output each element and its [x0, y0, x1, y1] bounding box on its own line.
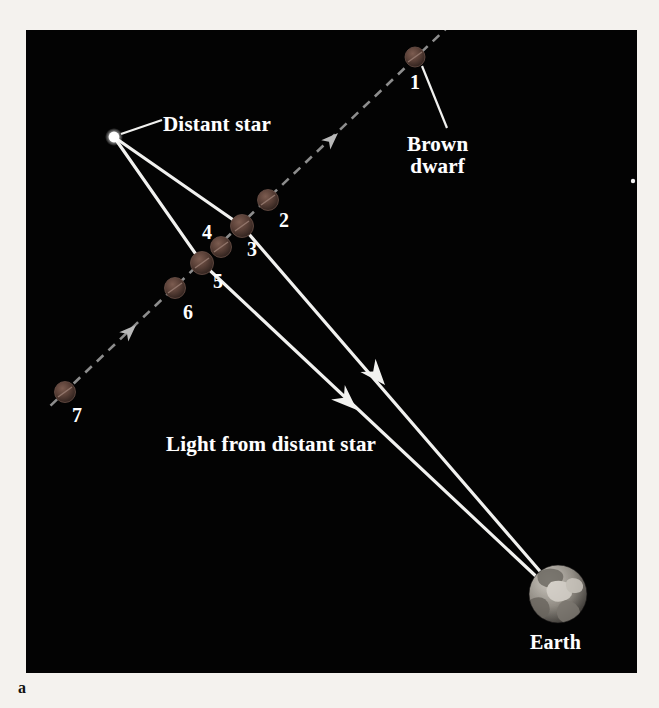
position-number-2: 2: [279, 210, 289, 230]
brown-dwarf-label-line1: Brown: [407, 133, 468, 155]
position-number-1: 1: [410, 72, 420, 92]
light-ray-lower: [114, 137, 540, 580]
brown-dwarf-position-7: [55, 382, 76, 403]
brown-dwarf-leader-line: [422, 66, 447, 128]
position-number-6: 6: [183, 302, 193, 322]
position-number-3: 3: [247, 239, 257, 259]
light-ray-arrow-upper: [360, 359, 392, 392]
brown-dwarf-position-4: [211, 237, 232, 258]
background-star-icon: [631, 179, 635, 183]
brown-dwarf-position-6: [165, 278, 186, 299]
sky-diagram-svg: [26, 30, 637, 673]
distant-star-leader-line: [121, 120, 162, 134]
earth-label: Earth: [530, 631, 581, 654]
brown-dwarf-position-3: [231, 215, 254, 238]
figure-root: Distant star Brown dwarf Light from dist…: [0, 0, 659, 708]
distant-star-label: Distant star: [163, 112, 271, 137]
track-direction-arrow-1: [321, 128, 342, 149]
brown-dwarf-position-1: [405, 47, 425, 67]
light-ray-upper: [114, 137, 545, 577]
sky-panel: Distant star Brown dwarf Light from dist…: [26, 30, 637, 673]
brown-dwarf-position-2: [258, 190, 279, 211]
panel-letter: a: [18, 679, 26, 697]
light-rays: [114, 137, 545, 580]
distant-star-object: [105, 128, 123, 146]
brown-dwarf-label: Brown dwarf: [407, 133, 468, 178]
brown-dwarf-label-line2: dwarf: [407, 155, 468, 177]
position-number-5: 5: [213, 271, 223, 291]
brown-dwarf-position-5: [191, 252, 214, 275]
light-ray-label: Light from distant star: [166, 432, 376, 457]
position-number-7: 7: [72, 405, 82, 425]
position-number-4: 4: [202, 222, 212, 242]
